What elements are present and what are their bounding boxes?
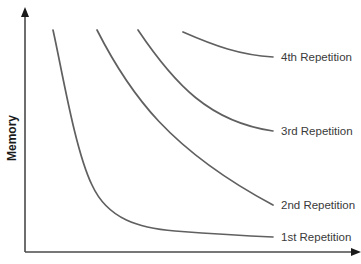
label-4th-repetition: 4th Repetition: [281, 51, 352, 63]
series-group: 1st Repetition 2nd Repetition 3rd Repeti…: [53, 30, 355, 243]
x-axis-arrow-icon: [351, 248, 361, 256]
label-3rd-repetition: 3rd Repetition: [281, 125, 353, 137]
y-axis-label: Memory: [5, 115, 19, 161]
label-1st-repetition: 1st Repetition: [281, 231, 351, 243]
forgetting-curve-chart: Memory 1st Repetition 2nd Repetition 3rd…: [0, 0, 361, 264]
curve-3rd-repetition: [138, 30, 273, 131]
curve-1st-repetition: [53, 30, 273, 237]
curve-2nd-repetition: [97, 30, 273, 205]
label-2nd-repetition: 2nd Repetition: [281, 199, 355, 211]
curve-4th-repetition: [183, 32, 273, 57]
y-axis-arrow-icon: [21, 7, 29, 17]
